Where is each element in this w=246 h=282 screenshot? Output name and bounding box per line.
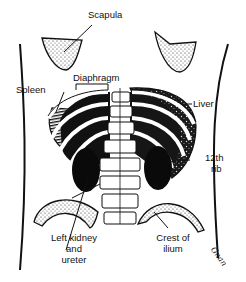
label-spleen: Spleen — [16, 84, 46, 95]
label-kidney-line3: ureter — [44, 254, 104, 265]
scapula-right — [155, 32, 196, 72]
label-crest-line1: Crest of — [150, 232, 196, 243]
label-liver: Liver — [193, 98, 214, 109]
label-12th-rib-line1: 12th — [205, 152, 224, 163]
label-crest-line2: ilium — [150, 243, 196, 254]
ilium-right — [138, 204, 204, 232]
label-12th-rib: 12th rib — [205, 152, 224, 174]
ilium-left — [34, 200, 98, 228]
anatomy-drawing — [0, 0, 246, 282]
label-12th-rib-line2: rib — [205, 163, 224, 174]
body-outline-right — [214, 44, 228, 258]
label-scapula: Scapula — [88, 9, 122, 20]
right-kidney — [144, 146, 172, 190]
label-crest-of-ilium: Crest of ilium — [150, 232, 196, 254]
scapula-left — [42, 38, 82, 70]
label-kidney-line1: Left kidney — [44, 232, 104, 243]
label-diaphragm: Diaphragm — [73, 72, 119, 83]
label-kidney-line2: and — [44, 243, 104, 254]
label-left-kidney-ureter: Left kidney and ureter — [44, 232, 104, 265]
body-outline-left — [20, 44, 25, 270]
